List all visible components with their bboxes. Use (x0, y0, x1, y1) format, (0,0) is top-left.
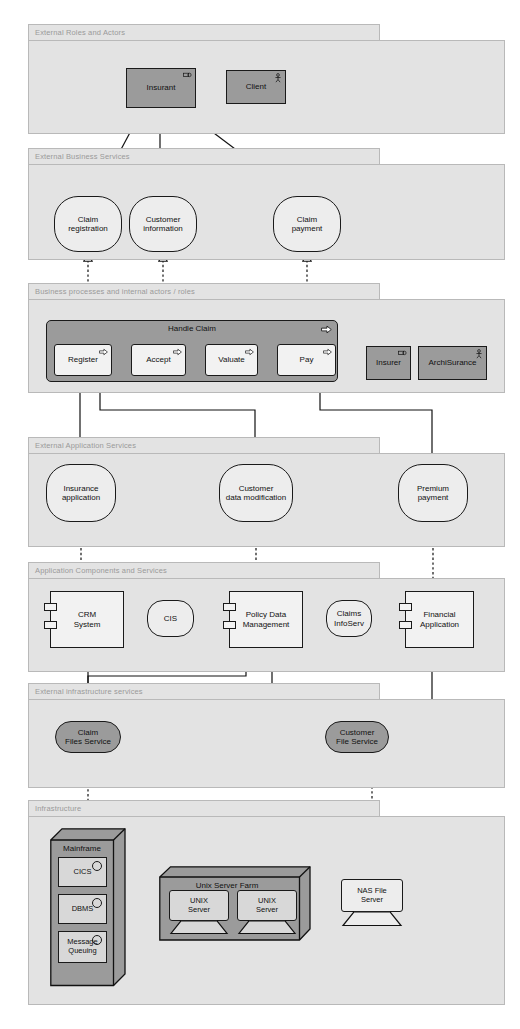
layer-label: External infrastructure services (35, 687, 143, 696)
layer-label: External Business Services (35, 152, 130, 161)
layer-tab: External Roles and Actors (28, 24, 380, 41)
element-label: CIS (161, 614, 180, 623)
element-insurer[interactable]: Insurer (366, 346, 411, 380)
element-label: Claim payment (289, 215, 326, 233)
process-arrow-icon (323, 348, 332, 356)
architecture-diagram: External Roles and Actors Insurant Clien… (0, 0, 520, 1029)
layer-tab: Application Components and Services (28, 562, 380, 579)
interface-cis[interactable]: CIS (147, 600, 194, 637)
element-label: Pay (297, 355, 317, 364)
element-label: Customer data modification (223, 484, 289, 502)
process-step-accept[interactable]: Accept (131, 344, 186, 376)
component-tab-icon (223, 603, 236, 611)
component-tab-icon (399, 621, 412, 629)
layer-tab: External Application Services (28, 437, 380, 454)
element-label: Premium payment (414, 484, 452, 502)
layer-label: External Roles and Actors (35, 28, 125, 37)
element-client[interactable]: Client (226, 70, 286, 104)
element-insurant[interactable]: Insurant (126, 68, 196, 108)
element-label: CRM System (71, 610, 104, 628)
layer-tab: External infrastructure services (28, 683, 380, 700)
component-tab-icon (44, 603, 57, 611)
element-label: Financial Application (417, 610, 462, 628)
element-label: Accept (143, 355, 173, 364)
element-label: Insurance application (59, 484, 103, 502)
element-label: Client (243, 82, 269, 91)
element-label: CICS (74, 868, 92, 877)
process-step-register[interactable]: Register (54, 344, 112, 376)
element-label: DBMS (72, 905, 94, 914)
element-label: Message Queuing (67, 938, 97, 955)
layer-label: External Application Services (35, 441, 136, 450)
service-claim-files-service[interactable]: Claim Files Service (55, 721, 121, 753)
element-label: Insurant (144, 83, 179, 92)
node-label: Mainframe (44, 844, 120, 853)
device-screen: UNIX Server (237, 890, 297, 921)
element-label: UNIX Server (188, 897, 210, 914)
device-unix-server-2[interactable]: UNIX Server (237, 890, 297, 935)
interface-claims-infoserv[interactable]: Claims InfoServ (326, 600, 372, 637)
device-nas-file-server[interactable]: NAS File Server (341, 879, 403, 927)
device-stand-icon (169, 920, 229, 935)
layer-label: Business processes and internal actors /… (35, 287, 195, 296)
element-label: Customer File Service (333, 728, 381, 746)
service-premium-payment[interactable]: Premium payment (398, 464, 468, 522)
process-step-valuate[interactable]: Valuate (205, 344, 258, 376)
service-customer-data-modification[interactable]: Customer data modification (219, 464, 293, 522)
device-screen: UNIX Server (169, 890, 229, 921)
element-label: Insurer (373, 358, 404, 367)
service-customer-information[interactable]: Customer information (129, 196, 197, 252)
component-tab-icon (399, 603, 412, 611)
device-screen: NAS File Server (341, 879, 403, 912)
element-label: Customer information (140, 215, 186, 233)
component-financial-application[interactable]: Financial Application (405, 591, 474, 648)
component-tab-icon (223, 621, 236, 629)
component-crm-system[interactable]: CRM System (50, 591, 124, 648)
system-software-icon (92, 861, 102, 871)
device-unix-server-1[interactable]: UNIX Server (169, 890, 229, 935)
process-arrow-icon (173, 348, 182, 356)
system-software-icon (92, 898, 102, 908)
layer-tab: External Business Services (28, 148, 380, 165)
service-customer-file-service[interactable]: Customer File Service (325, 721, 389, 753)
business-actor-icon (274, 73, 282, 83)
system-software-message-queuing[interactable]: Message Queuing (58, 931, 107, 963)
system-software-cics[interactable]: CICS (58, 857, 107, 887)
business-role-icon (183, 72, 192, 78)
node-label: Unix Server Farm (151, 881, 303, 890)
component-tab-icon (44, 621, 57, 629)
process-group-label: Handle Claim (47, 324, 337, 333)
layer-label: Infrastructure (35, 804, 81, 813)
service-claim-payment[interactable]: Claim payment (273, 196, 341, 252)
element-label: Claims InfoServ (331, 609, 367, 627)
system-software-dbms[interactable]: DBMS (58, 894, 107, 924)
element-label: NAS File Server (357, 887, 387, 904)
element-label: Register (65, 355, 101, 364)
process-step-pay[interactable]: Pay (277, 344, 336, 376)
element-label: Claim registration (65, 215, 111, 233)
element-label: Policy Data Management (240, 610, 293, 628)
service-claim-registration[interactable]: Claim registration (54, 196, 122, 252)
business-role-icon (398, 350, 407, 356)
element-label: Valuate (215, 355, 248, 364)
element-archisurance[interactable]: ArchiSurance (418, 346, 487, 380)
layer-tab: Infrastructure (28, 800, 380, 817)
element-label: UNIX Server (256, 897, 278, 914)
element-label: ArchiSurance (425, 358, 479, 367)
component-policy-data-management[interactable]: Policy Data Management (229, 591, 303, 648)
layer-label: Application Components and Services (35, 566, 167, 575)
layer-tab: Business processes and internal actors /… (28, 283, 380, 300)
device-stand-icon (341, 911, 403, 927)
element-label: Claim Files Service (62, 728, 114, 746)
service-insurance-application[interactable]: Insurance application (46, 464, 116, 522)
device-stand-icon (237, 920, 297, 935)
